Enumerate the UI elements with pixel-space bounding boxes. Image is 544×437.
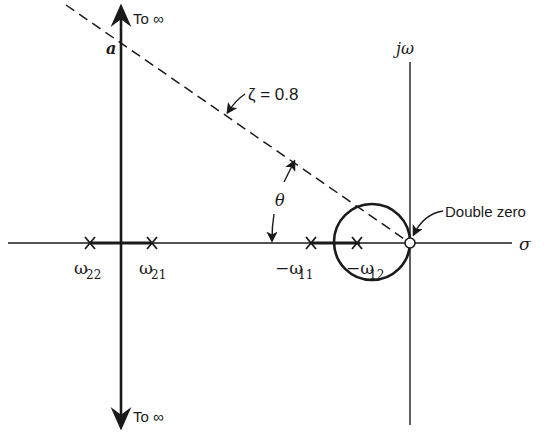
double-zero-label: Double zero <box>445 203 526 220</box>
pole-label-w21: ω 21 <box>139 258 166 282</box>
double-zero-marker <box>405 238 415 248</box>
root-locus-diagram: To ∞ To ∞ a ζ = 0.8 θ jω σ Double zero ω… <box>0 0 544 437</box>
svg-text:21: 21 <box>151 268 166 282</box>
theta-arrow-upper <box>284 162 294 182</box>
real-axis-label: σ <box>519 234 531 254</box>
imaginary-axis-label: jω <box>393 39 414 58</box>
double-zero-pointer-arrow <box>414 211 443 234</box>
damping-line <box>66 5 410 243</box>
svg-text:12: 12 <box>369 268 384 282</box>
pole-label-w11: −ω 11 <box>275 258 313 282</box>
svg-text:11: 11 <box>298 268 313 282</box>
pole-label-w22: ω 22 <box>74 258 101 282</box>
intercept-label: a <box>106 39 116 58</box>
angle-label: θ <box>275 191 285 210</box>
top-arrow-label: To ∞ <box>133 10 164 27</box>
damping-line-label: ζ = 0.8 <box>248 85 299 104</box>
bottom-arrow-label: To ∞ <box>133 408 164 425</box>
zeta-pointer-arrow <box>228 94 245 112</box>
theta-arrow-lower <box>272 214 274 240</box>
svg-text:22: 22 <box>86 268 101 282</box>
